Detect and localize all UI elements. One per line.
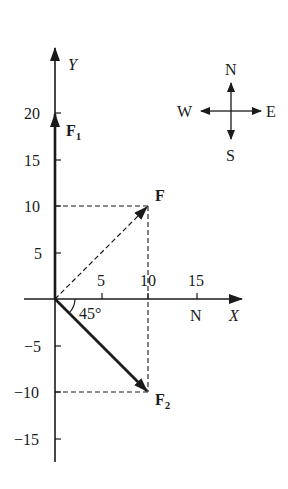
compass-s: S — [226, 147, 235, 164]
compass-n: N — [225, 61, 237, 78]
angle-arc — [69, 299, 75, 313]
force-vector-diagram: Y X N 20 15 10 5 −5 −10 −15 5 10 15 F1 F… — [0, 0, 288, 489]
compass-rose: N S E W — [177, 61, 276, 164]
y-tick-20: 20 — [24, 105, 40, 122]
y-tick-neg10: −10 — [14, 384, 39, 401]
compass-w: W — [177, 103, 193, 120]
x-tick-15: 15 — [188, 272, 204, 289]
y-tick-neg5: −5 — [24, 338, 41, 355]
x-unit-label: N — [190, 307, 202, 324]
y-tick-10: 10 — [24, 198, 40, 215]
vector-f1-label: F1 — [66, 122, 81, 142]
y-tick-5: 5 — [34, 245, 42, 262]
x-ticks — [102, 293, 197, 299]
angle-label: 45° — [79, 305, 101, 322]
vector-f2-label: F2 — [155, 391, 171, 411]
y-axis-label: Y — [68, 56, 79, 73]
vector-f-label: F — [155, 187, 165, 204]
y-tick-15: 15 — [24, 152, 40, 169]
y-tick-neg15: −15 — [14, 431, 39, 448]
compass-e: E — [266, 103, 276, 120]
x-axis-label: X — [228, 307, 240, 324]
x-tick-5: 5 — [97, 272, 105, 289]
